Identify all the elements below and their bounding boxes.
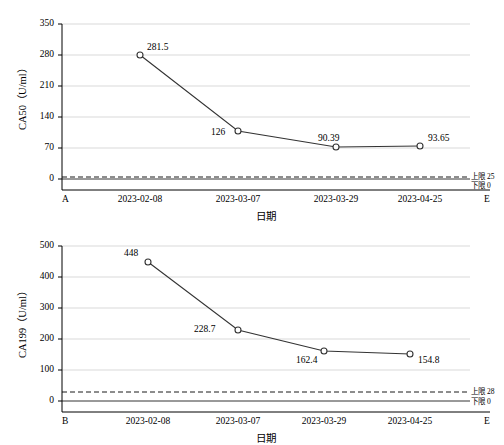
chart-ca50-origin-label: A — [62, 194, 69, 204]
chart-ca50-point-label-4: 93.65 — [428, 133, 449, 143]
chart-ca199-end-label: E — [484, 416, 490, 426]
chart-ca199-xtick-3: 2023-03-29 — [276, 416, 372, 426]
chart-ca199-y-axis-title: CA199（U/ml） — [14, 286, 29, 358]
chart-ca199-ytick-0: 0 — [26, 395, 54, 405]
chart-ca199-canvas — [0, 222, 504, 445]
chart-ca50-xtick-1: 2023-02-08 — [92, 194, 188, 204]
chart-ca199-x-axis-title: 日期 — [236, 430, 296, 445]
chart-ca199-ytick-400: 400 — [26, 271, 54, 281]
chart-page: CA50（U/ml） 350 280 210 140 70 0 2023-02-… — [0, 0, 504, 445]
chart-ca199-ytick-500: 500 — [26, 240, 54, 250]
chart-ca50-end-label: E — [484, 194, 490, 204]
chart-ca50-ytick-350: 350 — [26, 18, 54, 28]
chart-ca50-xtick-3: 2023-03-29 — [288, 194, 384, 204]
chart-ca50-xtick-4: 2023-04-25 — [372, 194, 468, 204]
chart-ca50-point-label-3: 90.39 — [318, 133, 339, 143]
chart-ca50-ytick-280: 280 — [26, 49, 54, 59]
chart-ca50: CA50（U/ml） 350 280 210 140 70 0 2023-02-… — [0, 0, 504, 222]
chart-ca50-x-axis-title: 日期 — [236, 208, 296, 223]
chart-ca50-xtick-2: 2023-03-07 — [190, 194, 286, 204]
chart-ca199-point-label-1: 448 — [124, 248, 138, 258]
chart-ca199-ytick-100: 100 — [26, 364, 54, 374]
chart-ca199-upper-limit-label: 上限 28 — [471, 387, 494, 396]
chart-ca199-ytick-200: 200 — [26, 333, 54, 343]
chart-ca199-point-label-3: 162.4 — [296, 355, 317, 365]
chart-ca50-point-label-2: 126 — [211, 127, 225, 137]
chart-ca199-point-label-4: 154.8 — [418, 355, 439, 365]
chart-ca50-point-label-1: 281.5 — [147, 42, 168, 52]
chart-ca199-lower-limit-label: 下限 0 — [471, 397, 491, 406]
chart-ca50-ytick-210: 210 — [26, 80, 54, 90]
chart-ca199-ytick-300: 300 — [26, 302, 54, 312]
chart-ca50-lower-limit-label: 下限 0 — [471, 181, 491, 190]
chart-ca199-point-label-2: 228.7 — [194, 324, 215, 334]
chart-ca199: CA199（U/ml） 500 400 300 200 100 0 2023-0… — [0, 222, 504, 445]
chart-ca50-upper-limit-label: 上限 25 — [471, 172, 494, 181]
chart-ca199-xtick-2: 2023-03-07 — [190, 416, 286, 426]
chart-ca50-ytick-0: 0 — [26, 173, 54, 183]
chart-ca199-xtick-4: 2023-04-25 — [362, 416, 458, 426]
chart-ca199-origin-label: B — [62, 416, 68, 426]
chart-ca50-ytick-140: 140 — [26, 111, 54, 121]
chart-ca50-canvas — [0, 0, 504, 222]
chart-ca50-ytick-70: 70 — [26, 142, 54, 152]
chart-ca199-xtick-1: 2023-02-08 — [100, 416, 196, 426]
